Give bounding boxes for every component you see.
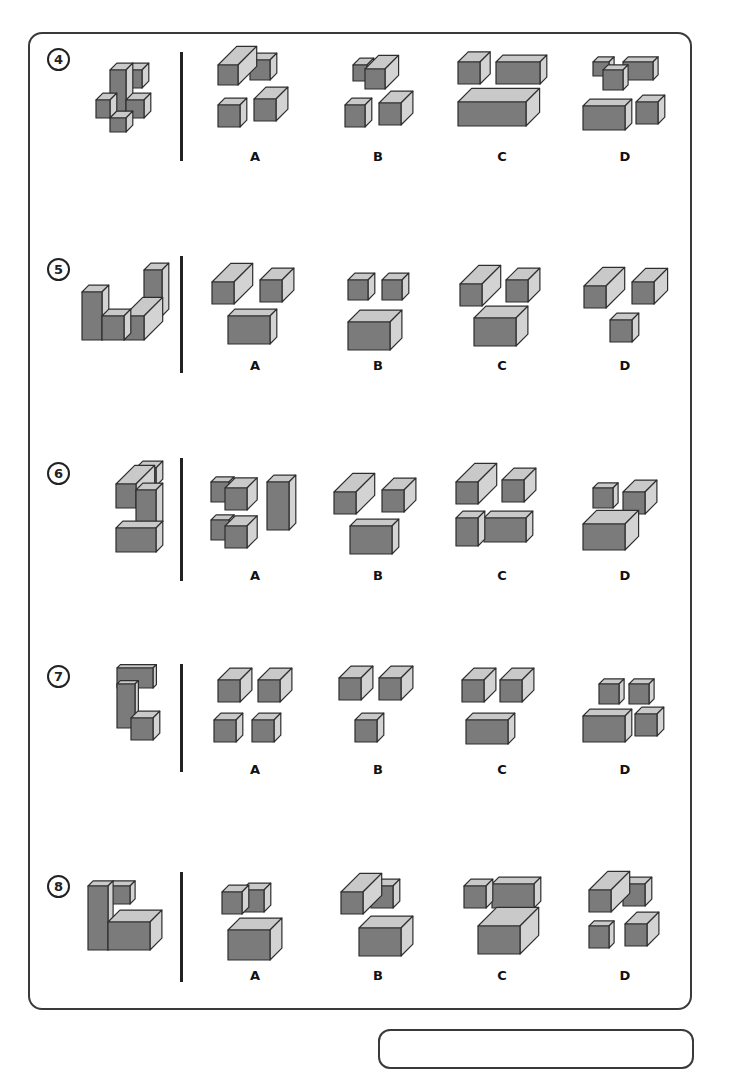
option-b-pieces bbox=[334, 473, 416, 554]
option-label-c[interactable]: C bbox=[487, 358, 517, 373]
option-label-d[interactable]: D bbox=[610, 358, 640, 373]
option-label-c[interactable]: C bbox=[487, 568, 517, 583]
option-label-c[interactable]: C bbox=[487, 968, 517, 983]
target-shape-figure bbox=[116, 461, 163, 552]
figures-canvas bbox=[0, 865, 730, 1065]
option-c-pieces bbox=[462, 668, 534, 744]
option-a-pieces bbox=[218, 46, 288, 127]
option-c-pieces bbox=[458, 52, 547, 126]
option-label-a[interactable]: A bbox=[240, 358, 270, 373]
option-b-pieces bbox=[345, 55, 413, 127]
option-label-a[interactable]: A bbox=[240, 149, 270, 164]
question-row-5: 5 ABCD bbox=[0, 248, 730, 448]
option-c-pieces bbox=[460, 265, 540, 346]
option-c-pieces bbox=[464, 877, 541, 954]
option-d-pieces bbox=[583, 57, 665, 130]
question-row-7: 7 ABCD bbox=[0, 655, 730, 855]
option-d-pieces bbox=[583, 480, 657, 550]
option-label-c[interactable]: C bbox=[487, 762, 517, 777]
option-label-b[interactable]: B bbox=[363, 762, 393, 777]
option-label-d[interactable]: D bbox=[610, 968, 640, 983]
figures-canvas bbox=[0, 248, 730, 448]
figures-canvas bbox=[0, 655, 730, 855]
option-label-b[interactable]: B bbox=[363, 149, 393, 164]
option-label-a[interactable]: A bbox=[240, 968, 270, 983]
option-d-pieces bbox=[583, 679, 664, 742]
option-label-d[interactable]: D bbox=[610, 568, 640, 583]
option-a-pieces bbox=[222, 883, 282, 960]
option-label-c[interactable]: C bbox=[487, 149, 517, 164]
option-d-pieces bbox=[584, 267, 668, 342]
target-shape-figure bbox=[96, 63, 151, 132]
target-shape-figure bbox=[88, 881, 162, 950]
option-c-pieces bbox=[456, 463, 536, 546]
option-a-pieces bbox=[211, 475, 296, 548]
option-a-pieces bbox=[212, 263, 294, 344]
figures-canvas bbox=[0, 38, 730, 238]
figures-canvas bbox=[0, 452, 730, 652]
option-a-pieces bbox=[214, 668, 292, 742]
option-d-pieces bbox=[589, 871, 659, 948]
option-label-d[interactable]: D bbox=[610, 149, 640, 164]
option-label-a[interactable]: A bbox=[240, 762, 270, 777]
option-label-b[interactable]: B bbox=[363, 568, 393, 583]
option-b-pieces bbox=[341, 873, 413, 956]
question-row-4: 4 ABCD bbox=[0, 38, 730, 238]
option-label-b[interactable]: B bbox=[363, 358, 393, 373]
target-shape-figure bbox=[117, 665, 160, 740]
option-label-a[interactable]: A bbox=[240, 568, 270, 583]
option-label-b[interactable]: B bbox=[363, 968, 393, 983]
option-b-pieces bbox=[348, 273, 409, 350]
target-shape-figure bbox=[82, 263, 169, 340]
option-b-pieces bbox=[339, 666, 413, 742]
question-row-6: 6 ABCD bbox=[0, 452, 730, 652]
option-label-d[interactable]: D bbox=[610, 762, 640, 777]
question-row-8: 8 ABCD bbox=[0, 865, 730, 1065]
